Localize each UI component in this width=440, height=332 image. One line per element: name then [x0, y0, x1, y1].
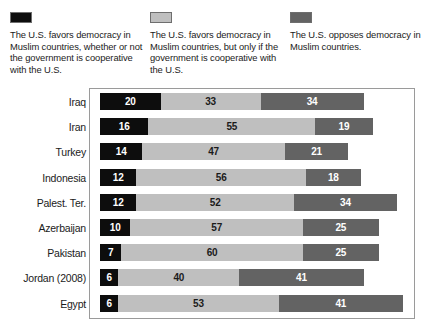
chart-row-label: Palest. Ter.: [0, 194, 86, 212]
chart-bar-segment: 41: [239, 269, 363, 286]
chart-bar: 76025: [100, 244, 379, 261]
chart-bar: 165519: [100, 118, 373, 135]
chart-legend: The U.S. favors democracy in Muslim coun…: [0, 0, 440, 88]
chart-row-label: Turkey: [0, 143, 86, 161]
chart-bar-segment: 16: [100, 118, 148, 135]
chart-bar-segment: 34: [261, 93, 364, 110]
chart-row: Iraq203334: [0, 93, 440, 111]
chart-bar: 203334: [100, 93, 364, 110]
legend-item-2: The U.S. opposes democracy in Muslim cou…: [290, 12, 430, 52]
chart-bar-segment: 56: [136, 169, 306, 186]
chart-bar-segment: 52: [136, 194, 294, 211]
chart-row-label: Iraq: [0, 93, 86, 111]
chart-bar-segment: 40: [118, 269, 239, 286]
chart-row-label: Egypt: [0, 295, 86, 313]
chart-bar-segment: 41: [279, 295, 403, 312]
chart-bar-segment: 7: [100, 244, 121, 261]
legend-item-1: The U.S. favors democracy in Muslim coun…: [150, 12, 290, 75]
chart-bar-segment: 12: [100, 194, 136, 211]
stacked-bar-chart: Iraq203334Iran165519Turkey144721Indonesi…: [0, 88, 440, 332]
legend-label-0: The U.S. favors democracy in Muslim coun…: [10, 29, 143, 75]
chart-bar: 125618: [100, 169, 361, 186]
chart-row-label: Pakistan: [0, 244, 86, 262]
chart-bar-segment: 60: [121, 244, 303, 261]
legend-swatch-favors-conditional: [150, 12, 172, 23]
legend-label-1: The U.S. favors democracy in Muslim coun…: [150, 29, 283, 75]
chart-row: Jordan (2008)64041: [0, 269, 440, 287]
legend-item-0: The U.S. favors democracy in Muslim coun…: [10, 12, 150, 75]
chart-bar-segment: 25: [303, 244, 379, 261]
chart-row-label: Azerbaijan: [0, 219, 86, 237]
legend-label-2: The U.S. opposes democracy in Muslim cou…: [290, 29, 423, 52]
chart-bar-segment: 20: [100, 93, 161, 110]
legend-swatch-opposes: [290, 12, 312, 23]
chart-bar-segment: 25: [303, 219, 379, 236]
chart-bar-segment: 18: [306, 169, 361, 186]
chart-bar-segment: 19: [315, 118, 373, 135]
chart-bar: 144721: [100, 143, 348, 160]
chart-row-label: Jordan (2008): [0, 269, 86, 287]
chart-row: Pakistan76025: [0, 244, 440, 262]
legend-swatch-favors-always: [10, 12, 32, 23]
chart-bar-segment: 6: [100, 295, 118, 312]
chart-bar-segment: 6: [100, 269, 118, 286]
chart-bar: 105725: [100, 219, 379, 236]
chart-bar: 65341: [100, 295, 403, 312]
chart-bar-segment: 21: [285, 143, 349, 160]
chart-row: Turkey144721: [0, 143, 440, 161]
chart-bar-segment: 57: [130, 219, 303, 236]
chart-bar: 125234: [100, 194, 397, 211]
chart-bar-segment: 34: [294, 194, 397, 211]
chart-bar-segment: 10: [100, 219, 130, 236]
chart-row: Palest. Ter.125234: [0, 194, 440, 212]
chart-row: Iran165519: [0, 118, 440, 136]
chart-bar-segment: 53: [118, 295, 279, 312]
chart-bar: 64041: [100, 269, 364, 286]
chart-row-label: Iran: [0, 118, 86, 136]
chart-row: Indonesia125618: [0, 169, 440, 187]
chart-bar-segment: 55: [148, 118, 315, 135]
chart-bar-segment: 33: [161, 93, 261, 110]
chart-bar-segment: 47: [142, 143, 284, 160]
chart-row: Egypt65341: [0, 295, 440, 313]
chart-row: Azerbaijan105725: [0, 219, 440, 237]
chart-row-label: Indonesia: [0, 169, 86, 187]
chart-bar-segment: 14: [100, 143, 142, 160]
chart-bar-segment: 12: [100, 169, 136, 186]
